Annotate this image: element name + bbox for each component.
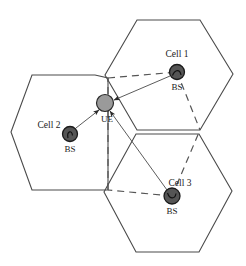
base-station-cell-3[interactable] [164, 188, 180, 204]
ue-icon [97, 95, 114, 112]
arrow-bs2-to-ue [76, 110, 99, 128]
cell-diagram-figure: Cell 1 BS Cell 2 BS Cell 3 BS UE [0, 0, 246, 266]
cell-2-label: Cell 2 [38, 120, 61, 130]
cell-1-bs-label: BS [171, 82, 182, 92]
signal-arrow-group [76, 76, 170, 190]
dashed-edge-bottom [108, 190, 172, 196]
bs-icon [170, 65, 185, 80]
hexagon-cell-1 [105, 20, 233, 130]
ue-label: UE [101, 114, 113, 124]
hexagon-group [11, 20, 233, 252]
user-equipment[interactable] [97, 95, 114, 112]
base-station-cell-1[interactable] [170, 65, 185, 80]
dashed-edge-cell1-right [177, 72, 200, 130]
cell-3-bs-label: BS [166, 206, 177, 216]
cell-3-label: Cell 3 [169, 178, 192, 188]
arrow-bs3-to-ue [110, 111, 167, 190]
cell-diagram-canvas: Cell 1 BS Cell 2 BS Cell 3 BS UE [0, 0, 246, 266]
cell-1-label: Cell 1 [166, 49, 189, 59]
base-station-cell-2[interactable] [63, 127, 78, 142]
bs-icon [63, 127, 78, 142]
bs-icon [164, 188, 180, 204]
cell-2-bs-label: BS [64, 144, 75, 154]
arrow-bs1-to-ue [114, 76, 170, 100]
hexagon-cell-2 [11, 75, 108, 190]
